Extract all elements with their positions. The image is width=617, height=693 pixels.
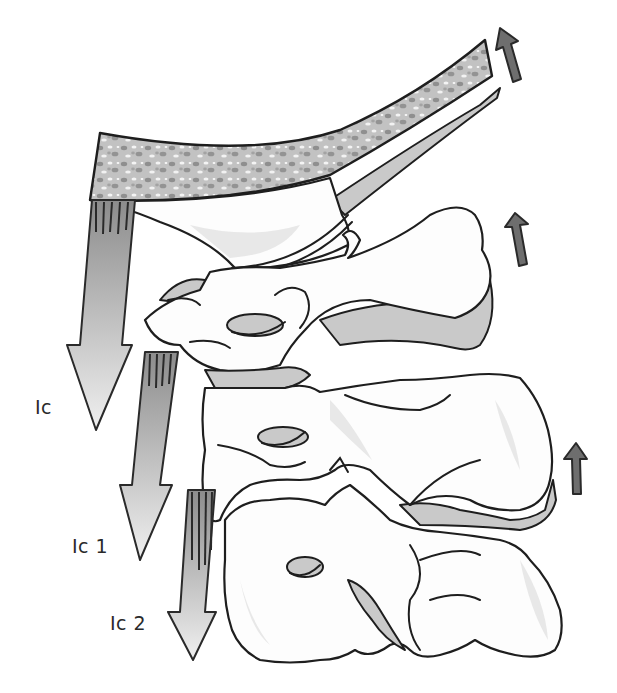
c3-vertebra bbox=[224, 485, 561, 663]
up-arrow-skull bbox=[496, 28, 521, 82]
cervical-spine-diagram bbox=[0, 0, 617, 693]
up-arrow-axis bbox=[564, 443, 587, 494]
label-ic2: Ic 2 bbox=[110, 612, 146, 634]
up-arrow-atlas bbox=[505, 213, 528, 266]
down-arrow-ic bbox=[67, 200, 135, 430]
down-arrow-ic2 bbox=[168, 490, 216, 660]
label-ic1: Ic 1 bbox=[72, 535, 108, 557]
down-arrow-ic1 bbox=[120, 352, 178, 560]
label-ic: Ic bbox=[35, 396, 52, 418]
